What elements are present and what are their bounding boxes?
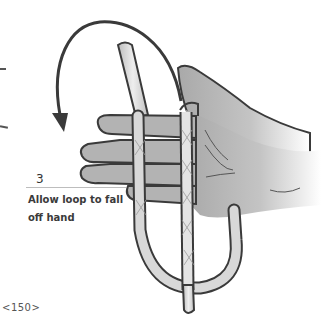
step-number: 3 — [36, 172, 44, 186]
page-number: <150> — [2, 302, 40, 313]
caption-line-2: off hand — [28, 209, 138, 227]
step-divider — [26, 187, 126, 188]
step-caption: Allow loop to fall off hand — [28, 191, 138, 227]
knot-illustration — [0, 0, 321, 327]
caption-line-1: Allow loop to fall — [28, 191, 138, 209]
